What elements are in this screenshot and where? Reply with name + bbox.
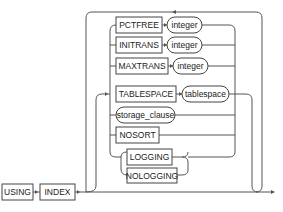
storage-clause-nonterminal: storage_clause [117,110,175,120]
nosort-option: NOSORT [116,127,159,143]
integer-param: integer [172,40,198,50]
storage-clause-option: storage_clause [116,107,175,123]
maxtrans-keyword: MAXTRANS [118,61,166,71]
initrans-option: INITRANS integer [116,37,202,53]
loop-arrow-icon [172,10,176,14]
index-keyword: INDEX [45,187,71,197]
end-arrow-icon [271,190,275,194]
arrow-icon [105,92,108,96]
tablespace-option: TABLESPACE tablespace [116,86,235,102]
index-keyword-box: INDEX [40,184,75,200]
pctfree-option: PCTFREE integer [116,17,202,33]
nologging-keyword: NOLOGGING [126,171,178,181]
integer-param: integer [172,20,198,30]
tablespace-param: tablespace [185,89,226,99]
nosort-keyword: NOSORT [119,130,155,140]
integer-param: integer [178,61,204,71]
tablespace-keyword: TABLESPACE [119,89,174,99]
initrans-keyword: INITRANS [119,40,159,50]
using-keyword: USING [4,187,31,197]
syntax-diagram: PCTFREE integer INITRANS integer MAXTRAN… [0,0,283,212]
using-keyword-box: USING [2,184,33,200]
arrow-icon [77,190,80,194]
maxtrans-option: MAXTRANS integer [116,58,208,74]
exit-branch [235,94,258,192]
pctfree-keyword: PCTFREE [119,20,159,30]
entry-branch [86,94,110,192]
logging-keyword: LOGGING [130,152,170,162]
arrow-icon [35,190,38,194]
logging-choice: LOGGING NOLOGGING [121,149,188,183]
